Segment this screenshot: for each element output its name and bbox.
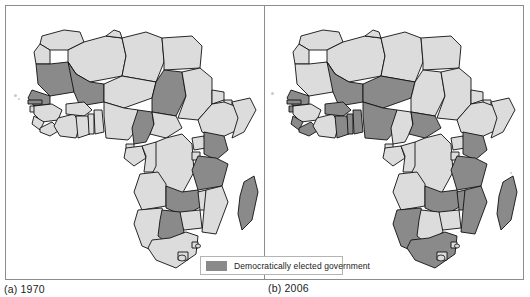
africa-map-1970 [6,6,264,279]
map-panel-2006 [265,6,523,279]
map-legend: Democratically elected government [200,256,343,275]
legend-label: Democratically elected government [234,261,370,271]
scan-speck [510,172,512,174]
caption-panel-b: (b) 2006 [268,282,309,294]
map-panel-1970 [6,6,264,279]
caption-panel-a: (a) 1970 [4,283,45,295]
scan-speck [271,92,274,95]
figure-container: Democratically elected government (a) 19… [0,0,530,297]
democratic-swatch-icon [206,261,227,271]
africa-map-2006 [265,6,523,279]
scan-speck [18,98,20,100]
scan-speck [14,94,17,97]
